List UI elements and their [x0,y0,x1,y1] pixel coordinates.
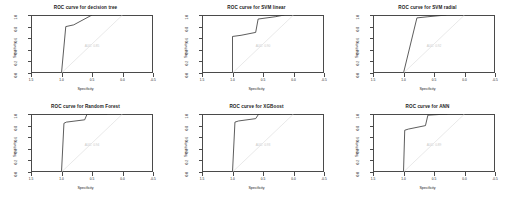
x-tick-mark [202,73,203,77]
auc-annotation: AUC: 0.94 [85,143,100,147]
x-tick-label: 0.5 [90,78,94,82]
auc-annotation: AUC: 0.85 [85,44,100,48]
y-tick-label: 0.0 [14,73,18,77]
x-tick-mark [465,172,466,176]
x-tick-label: -0.5 [321,177,327,181]
y-tick-label: 0.8 [14,126,18,130]
x-tick-mark [465,73,466,77]
roc-panel: ROC curve for ANN0.00.20.40.60.81.01.51.… [342,99,513,198]
x-tick-mark [62,73,63,77]
y-tick-label: 1.0 [185,114,189,118]
panel-title: ROC curve for SVM radial [342,5,513,10]
y-axis-label: Sensitivity [13,41,17,57]
x-tick-label: 1.0 [59,177,63,181]
x-tick-mark [404,73,405,77]
x-tick-label: 0.5 [432,177,436,181]
roc-panel: ROC curve for SVM radial0.00.20.40.60.81… [342,0,513,99]
x-tick-mark [92,172,93,176]
roc-panel: ROC curve for SVM linear0.00.20.40.60.81… [171,0,342,99]
x-tick-label: 1.5 [200,177,204,181]
y-axis-label: Sensitivity [355,140,359,156]
y-tick-label: 1.0 [14,114,18,118]
x-tick-label: 1.0 [230,78,234,82]
roc-panel-grid: ROC curve for decision tree0.00.20.40.60… [0,0,513,198]
x-axis-label: Specificity [342,186,513,190]
roc-panel: ROC curve for XGBoost0.00.20.40.60.81.01… [171,99,342,198]
y-tick-label: 0.8 [185,27,189,31]
x-axis-label: Specificity [171,87,342,91]
panel-title: ROC curve for Random Forest [0,104,171,109]
x-tick-label: 1.5 [29,177,33,181]
y-tick-label: 0.8 [185,126,189,130]
x-axis-label: Specificity [342,87,513,91]
y-tick-label: 1.0 [356,114,360,118]
x-axis-label: Specificity [0,186,171,190]
y-axis-label: Sensitivity [13,140,17,156]
x-tick-mark [31,73,32,77]
x-tick-mark [434,172,435,176]
x-tick-label: -0.5 [492,78,498,82]
x-axis-label: Specificity [171,186,342,190]
x-tick-mark [294,172,295,176]
x-tick-mark [202,172,203,176]
x-tick-label: 0.0 [291,177,295,181]
auc-annotation: AUC: 0.92 [427,44,442,48]
y-axis-label: Sensitivity [355,41,359,57]
x-tick-label: 1.0 [401,177,405,181]
y-axis-label: Sensitivity [184,140,188,156]
x-tick-mark [324,73,325,77]
auc-annotation: AUC: 0.93 [256,143,271,147]
panel-title: ROC curve for decision tree [0,5,171,10]
x-tick-label: 1.5 [29,78,33,82]
x-tick-label: 0.0 [462,78,466,82]
x-tick-label: 0.5 [261,78,265,82]
x-tick-mark [263,73,264,77]
x-tick-mark [233,172,234,176]
y-tick-label: 1.0 [185,15,189,19]
y-tick-label: 0.2 [185,61,189,65]
x-tick-mark [404,172,405,176]
x-tick-label: 1.0 [401,78,405,82]
x-tick-mark [373,172,374,176]
x-tick-label: -0.5 [492,177,498,181]
x-tick-label: 1.5 [371,78,375,82]
panel-title: ROC curve for XGBoost [171,104,342,109]
x-tick-mark [434,73,435,77]
x-tick-mark [31,172,32,176]
x-tick-mark [495,73,496,77]
x-tick-mark [373,73,374,77]
x-tick-label: 0.0 [120,78,124,82]
x-tick-mark [233,73,234,77]
x-tick-label: 0.0 [291,78,295,82]
y-tick-label: 1.0 [356,15,360,19]
x-tick-mark [495,172,496,176]
y-tick-label: 0.8 [356,27,360,31]
y-tick-label: 0.0 [356,172,360,176]
x-tick-label: 0.5 [432,78,436,82]
y-tick-label: 0.2 [356,61,360,65]
x-tick-label: 0.5 [90,177,94,181]
y-tick-label: 0.0 [185,73,189,77]
x-tick-label: 1.0 [230,177,234,181]
auc-annotation: AUC: 0.89 [427,143,442,147]
x-tick-mark [62,172,63,176]
auc-annotation: AUC: 0.90 [256,44,271,48]
x-tick-label: 0.0 [462,177,466,181]
roc-panel: ROC curve for Random Forest0.00.20.40.60… [0,99,171,198]
y-tick-label: 0.0 [185,172,189,176]
y-tick-label: 0.2 [185,160,189,164]
x-tick-label: 0.5 [261,177,265,181]
x-tick-label: -0.5 [150,177,156,181]
y-tick-label: 1.0 [14,15,18,19]
x-axis-label: Specificity [0,87,171,91]
x-tick-mark [153,73,154,77]
y-tick-label: 0.2 [14,61,18,65]
x-tick-mark [294,73,295,77]
x-tick-label: 0.0 [120,177,124,181]
y-tick-label: 0.0 [356,73,360,77]
y-tick-label: 0.0 [14,172,18,176]
x-tick-mark [92,73,93,77]
x-tick-label: 1.5 [371,177,375,181]
x-tick-mark [324,172,325,176]
x-tick-mark [263,172,264,176]
